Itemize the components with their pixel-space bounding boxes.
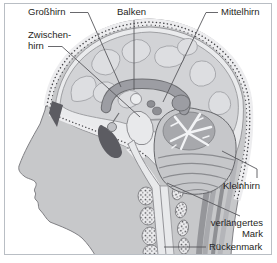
label-zwischenhirn: Zwischen- hirn (28, 29, 71, 51)
label-verlaengertes-mark: verlängertes Mark (211, 217, 263, 239)
anatomy-figure: Großhirn Zwischen- hirn Balken Mittelhir… (0, 0, 277, 263)
midbrain-colliculi-1 (147, 101, 155, 108)
label-mittelhirn: Mittelhirn (221, 6, 260, 17)
label-kleinhirn: Kleinhirn (223, 180, 260, 191)
label-verlaengertes-mark-line1: verlängertes (211, 217, 263, 228)
label-rueckenmark: Rückenmark (209, 241, 262, 252)
midbrain-colliculi-2 (153, 107, 162, 115)
pituitary-gland (108, 123, 117, 132)
label-zwischenhirn-line1: Zwischen- (28, 29, 71, 40)
label-balken: Balken (117, 6, 146, 17)
thalamus (131, 94, 142, 105)
label-grosshirn: Großhirn (28, 6, 65, 17)
splenium (172, 95, 190, 111)
label-zwischenhirn-line2: hirn (28, 40, 71, 51)
label-verlaengertes-mark-line2: Mark (211, 228, 263, 239)
